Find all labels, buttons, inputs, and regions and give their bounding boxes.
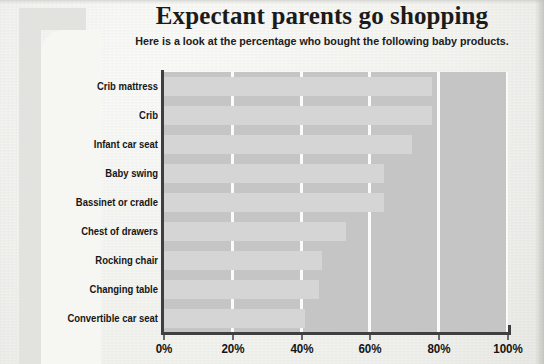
gridline-100pct xyxy=(506,72,508,333)
bar xyxy=(164,135,412,154)
bar xyxy=(164,309,305,328)
category-label: Crib xyxy=(22,110,158,121)
x-axis-end-cap xyxy=(508,325,511,335)
x-axis-line xyxy=(161,332,511,335)
x-tick-label-20pct: 20% xyxy=(205,342,262,356)
bar xyxy=(164,222,346,241)
x-tick-100pct xyxy=(507,335,509,340)
bar xyxy=(164,77,432,96)
x-tick-label-80pct: 80% xyxy=(411,342,468,356)
y-axis-line xyxy=(161,70,164,335)
x-tick-label-100pct: 100% xyxy=(480,342,537,356)
x-tick-label-60pct: 60% xyxy=(342,342,399,356)
bar xyxy=(164,280,319,299)
bar xyxy=(164,164,384,183)
gridline-80pct xyxy=(437,72,440,333)
y-axis-category-labels-group: Crib mattressCribInfant car seatBaby swi… xyxy=(8,0,158,364)
x-tick-40pct xyxy=(301,335,303,340)
plot-area xyxy=(164,72,508,333)
category-label: Convertible car seat xyxy=(22,313,158,324)
x-tick-0pct xyxy=(163,335,165,340)
x-tick-60pct xyxy=(369,335,371,340)
bar xyxy=(164,106,432,125)
bar-chart: 0%20%40%60%80%100% Crib mattressCribInfa… xyxy=(0,0,544,364)
x-tick-label-40pct: 40% xyxy=(274,342,331,356)
x-tick-20pct xyxy=(232,335,234,340)
category-label: Changing table xyxy=(22,284,158,295)
bar xyxy=(164,251,322,270)
category-label: Infant car seat xyxy=(22,139,158,150)
category-label: Rocking chair xyxy=(22,255,158,266)
category-label: Baby swing xyxy=(22,168,158,179)
category-label: Crib mattress xyxy=(22,81,158,92)
bar xyxy=(164,193,384,212)
category-label: Bassinet or cradle xyxy=(22,197,158,208)
page-canvas: Expectant parents go shopping Here is a … xyxy=(0,0,544,364)
category-label: Chest of drawers xyxy=(22,226,158,237)
x-tick-80pct xyxy=(438,335,440,340)
